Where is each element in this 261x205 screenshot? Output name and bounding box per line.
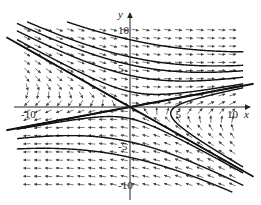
field-arrow (208, 175, 214, 178)
field-arrow (56, 110, 62, 113)
field-arrow (110, 143, 117, 144)
field-arrow (164, 29, 171, 30)
field-arrow (230, 150, 236, 154)
field-arrow (219, 109, 224, 114)
field-arrow (199, 116, 200, 123)
field-arrow (197, 46, 204, 47)
field-arrow (164, 143, 171, 146)
field-arrow (47, 84, 51, 90)
field-arrow (99, 53, 106, 55)
field-arrow (175, 95, 182, 96)
field-arrow (143, 135, 150, 137)
field-arrow (132, 176, 139, 178)
field-arrow (132, 151, 139, 153)
field-arrow (67, 29, 74, 31)
field-arrow (46, 101, 51, 106)
field-arrow (121, 176, 128, 177)
field-arrow (45, 184, 52, 185)
field-arrow (143, 70, 150, 71)
field-arrow (132, 62, 139, 63)
field-arrow (121, 78, 128, 80)
field-arrow (99, 61, 106, 63)
field-arrow (186, 38, 193, 39)
solution-curve (130, 86, 243, 171)
field-arrow (230, 133, 234, 139)
field-arrow (56, 176, 63, 177)
field-arrow (121, 94, 128, 96)
y-axis-label: y (117, 8, 123, 20)
field-arrow (121, 86, 128, 88)
field-arrow (99, 45, 106, 47)
field-arrow (144, 108, 148, 114)
field-arrow (34, 135, 41, 136)
field-arrow (99, 135, 106, 136)
field-arrow (26, 83, 28, 90)
field-arrow (132, 86, 139, 87)
field-arrow (143, 151, 150, 153)
field-arrow (229, 94, 236, 96)
field-arrow (164, 175, 171, 177)
field-arrow (99, 37, 106, 39)
field-arrow (45, 119, 52, 121)
field-arrow (100, 85, 106, 88)
field-arrow (175, 159, 182, 161)
field-arrow (132, 54, 139, 55)
field-arrow (186, 46, 193, 47)
field-arrow (89, 37, 96, 39)
field-arrow (67, 77, 73, 81)
field-arrow (34, 184, 41, 185)
field-arrow (218, 94, 225, 96)
field-arrow (88, 143, 95, 144)
field-arrow (219, 133, 224, 138)
field-arrow (208, 142, 214, 146)
field-arrow (67, 176, 74, 177)
field-arrow (153, 175, 160, 177)
field-arrow (24, 60, 30, 64)
field-arrow (110, 159, 117, 160)
field-arrow (164, 159, 171, 161)
field-arrow (218, 30, 225, 31)
axes: x y (14, 8, 250, 200)
y-tick-label: 5 (118, 62, 124, 74)
field-arrow (143, 29, 150, 30)
field-arrow (45, 176, 52, 177)
field-arrow (197, 134, 203, 138)
field-arrow (88, 184, 95, 185)
field-arrow (132, 127, 139, 129)
field-arrow (175, 151, 181, 154)
field-arrow (25, 101, 30, 106)
field-arrow (197, 183, 204, 185)
field-arrow (197, 87, 204, 88)
field-arrow (207, 30, 214, 31)
field-arrow (90, 92, 95, 97)
field-arrow (68, 84, 73, 89)
field-arrow (121, 119, 128, 120)
field-arrow (24, 135, 31, 136)
field-arrow (187, 125, 192, 130)
field-arrow (59, 92, 60, 99)
field-arrow (99, 69, 106, 71)
field-arrow (121, 159, 128, 160)
field-arrow (78, 152, 85, 153)
x-tick-label: 5 (176, 108, 182, 120)
field-arrow (186, 29, 193, 30)
field-arrow (164, 37, 171, 38)
field-arrow (198, 125, 202, 130)
solution-curve (27, 22, 243, 66)
field-arrow (175, 29, 182, 30)
field-arrow (186, 167, 193, 169)
field-arrow (24, 52, 30, 56)
field-arrow (175, 167, 182, 169)
field-arrow (231, 124, 233, 131)
field-arrow (153, 159, 160, 161)
field-arrow (143, 54, 150, 55)
field-arrow (99, 160, 106, 161)
field-arrow (132, 94, 139, 95)
field-arrow (197, 38, 204, 39)
field-arrow (99, 184, 106, 185)
field-arrow (99, 77, 106, 79)
field-arrow (35, 45, 41, 48)
field-arrow (67, 110, 73, 113)
field-arrow (79, 100, 83, 106)
field-arrow (187, 108, 191, 114)
